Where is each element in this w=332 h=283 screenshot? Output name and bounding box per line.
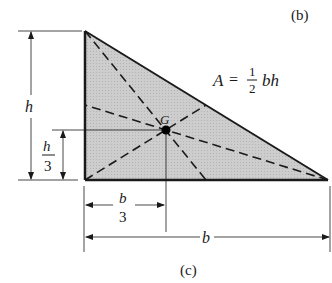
formula-lhs: A [212, 71, 224, 90]
formula-rhs: bh [262, 71, 279, 90]
b3-numerator: b [119, 190, 127, 206]
b3-denominator: 3 [119, 209, 127, 225]
formula-equals: = [229, 71, 238, 88]
centroid-label: G [160, 112, 170, 127]
panel-label-b: (b) [291, 7, 309, 24]
formula-numerator: 1 [249, 64, 256, 79]
triangle-centroid-diagram: G h h 3 b 3 b A = 1 2 bh (b) (c) [0, 0, 332, 283]
h3-denominator: 3 [44, 158, 52, 174]
h3-numerator: h [43, 138, 51, 154]
h-label: h [25, 98, 33, 115]
figure-caption: (c) [180, 262, 197, 279]
formula-denominator: 2 [249, 81, 256, 96]
b-label: b [202, 229, 210, 246]
